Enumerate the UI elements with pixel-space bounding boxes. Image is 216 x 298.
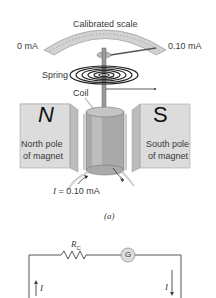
scale-max-label: 0.10 mA xyxy=(168,42,202,51)
resistor-label: RC xyxy=(71,240,81,251)
spring-label: Spring xyxy=(42,71,68,80)
coil-label: Coil xyxy=(73,89,89,98)
left-current-label: I xyxy=(40,284,43,293)
scale-label: Calibrated scale xyxy=(73,20,138,29)
south-pole-line2: of magnet xyxy=(148,152,188,161)
north-pole-line2: of magnet xyxy=(23,152,63,161)
pointer-needle xyxy=(104,48,156,56)
galvanometer-symbol: G xyxy=(125,251,131,259)
circuit-diagram xyxy=(29,248,181,298)
scale-min-label: 0 mA xyxy=(17,42,38,51)
current-label: I = 0.10 mA xyxy=(53,187,100,196)
south-letter: S xyxy=(153,104,168,126)
current-value: = 0.10 mA xyxy=(56,186,100,196)
coil xyxy=(84,107,126,175)
right-current-label: I xyxy=(165,283,168,292)
north-pole-line1: North pole xyxy=(21,140,63,149)
north-letter: N xyxy=(38,104,54,126)
south-pole-line1: South pole xyxy=(146,140,189,149)
figure-caption: (a) xyxy=(104,212,115,221)
